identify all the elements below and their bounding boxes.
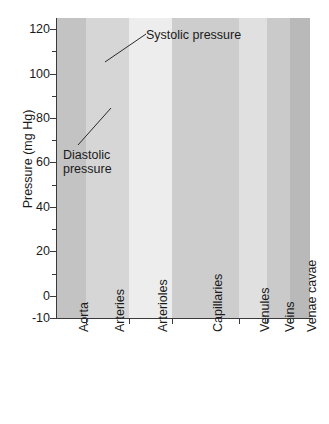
x-label-veins: Veins xyxy=(283,301,297,332)
y-tick-label-120: 120 xyxy=(4,23,50,36)
x-label-aorta: Aorta xyxy=(77,302,91,332)
x-tick-2 xyxy=(129,318,130,324)
y-tick-label-80: 80 xyxy=(4,112,50,125)
annotation-systolic: Systolic pressure xyxy=(146,28,241,42)
y-tick-label-60: 60 xyxy=(4,156,50,169)
x-tick-1 xyxy=(86,318,87,324)
x-tick-4 xyxy=(239,318,240,324)
blood-pressure-chart: Pressure (mg Hg) 120100806040200-10 Aort… xyxy=(0,0,329,424)
y-tick-label-0: 0 xyxy=(4,290,50,303)
x-label-arterioles: Arterioles xyxy=(156,279,170,332)
x-tick-5 xyxy=(267,318,268,324)
x-tick-6 xyxy=(290,318,291,324)
y-tick-label-20: 20 xyxy=(4,245,50,258)
annotation-diastolic: Diastolic pressure xyxy=(63,148,112,176)
x-label-venae-cavae: Venae cavae xyxy=(305,260,319,332)
y-axis-labels: 120100806040200-10 xyxy=(0,0,50,424)
x-label-venules: Venules xyxy=(258,288,272,332)
band-veins xyxy=(267,18,290,318)
band-capillaries xyxy=(172,18,239,318)
y-tick-label-40: 40 xyxy=(4,201,50,214)
y-tick-label--10: -10 xyxy=(4,312,50,325)
y-tick-label-100: 100 xyxy=(4,68,50,81)
band-venules xyxy=(239,18,267,318)
band-arterioles xyxy=(129,18,172,318)
x-label-capillaries: Capillaries xyxy=(211,274,225,332)
x-tick-3 xyxy=(172,318,173,324)
x-label-arteries: Arteries xyxy=(113,289,127,332)
x-axis-line xyxy=(56,318,311,319)
